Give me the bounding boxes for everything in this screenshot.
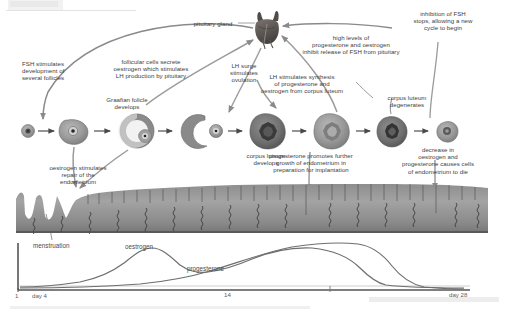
follicle-stage-2 xyxy=(59,120,88,145)
corpus-albicans-stage-8 xyxy=(437,122,458,143)
label-pituitary-gland: pituitary gland xyxy=(186,20,240,27)
x-tick-day-28: day 28 xyxy=(449,291,467,298)
label-high-levels-inhibit: high levels of progesterone and oestroge… xyxy=(284,34,418,56)
series-label-oestrogen: oestrogen xyxy=(125,243,153,250)
series-label-progesterone: progesterone xyxy=(187,265,224,272)
x-tick-day-4: day 4 xyxy=(32,292,47,299)
x-tick-14: 14 xyxy=(224,291,231,298)
label-lh-stimulates-synthesis: LH stimulates synthesis of progesterone … xyxy=(240,73,364,95)
label-menstruation: menstruation xyxy=(33,242,69,249)
follicle-stage-1 xyxy=(22,125,35,138)
series-oestrogen-curve xyxy=(20,248,464,288)
follicle-stage-3-graafian xyxy=(118,114,154,148)
label-inhibition-of-fsh-stops: inhibition of FSH stops, allowing a new … xyxy=(398,10,488,32)
corpus-luteum-stage-5 xyxy=(250,114,285,149)
corpus-luteum-stage-7-degenerating xyxy=(377,117,407,147)
series-progesterone-curve xyxy=(20,243,464,289)
label-decrease-in-hormones: decrease in oestrogen and progesterone c… xyxy=(378,146,498,175)
endometrium-illustration xyxy=(16,184,488,234)
arrow-inhibition-stops-to-pituitary xyxy=(283,24,392,28)
label-follicular-cells-secrete: follicular cells secrete oestrogen which… xyxy=(87,58,215,80)
follicle-stage-4-ovulation xyxy=(181,115,223,149)
label-graafian-follicle: Graafian folicle develops xyxy=(96,96,158,110)
figure-canvas: pituitary gland FSH stimulates developme… xyxy=(0,0,505,312)
label-progesterone-promotes-growth: progesterone promotes further growth of … xyxy=(244,152,378,174)
hormone-level-graph xyxy=(18,243,470,292)
pituitary-gland-illustration xyxy=(255,11,279,49)
x-tick-1: 1 xyxy=(15,292,18,299)
label-corpus-luteum-degenerates: corpus luteum degenerates xyxy=(376,94,438,108)
label-oestrogen-repair: oestrogen stimulates repair of the endom… xyxy=(38,164,118,186)
corpus-luteum-stage-6 xyxy=(314,114,349,149)
